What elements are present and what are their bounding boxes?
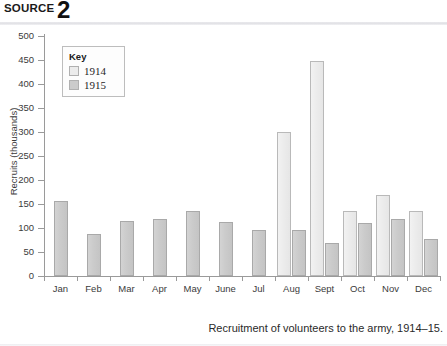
bar-1915 bbox=[120, 221, 134, 276]
legend-swatch-icon bbox=[69, 66, 79, 76]
bar-1915 bbox=[292, 230, 306, 276]
x-axis-tick bbox=[44, 276, 45, 281]
x-axis-tick-label: June bbox=[209, 283, 242, 294]
bar-1915 bbox=[252, 230, 266, 276]
bar-1914 bbox=[310, 61, 324, 276]
header-divider bbox=[0, 22, 447, 25]
legend-label: 1915 bbox=[84, 79, 106, 91]
bar-1915 bbox=[325, 243, 339, 276]
x-axis-tick bbox=[209, 276, 210, 281]
y-axis-tick-label: 200 bbox=[4, 174, 34, 185]
y-axis-tick-label: 50 bbox=[4, 246, 34, 257]
x-axis-tick-label: Mar bbox=[110, 283, 143, 294]
y-axis-tick-label: 400 bbox=[4, 78, 34, 89]
x-axis-tick bbox=[275, 276, 276, 281]
x-axis-tick bbox=[176, 276, 177, 281]
legend-entry: 1914 bbox=[69, 65, 118, 77]
x-axis-tick-label: Dec bbox=[407, 283, 440, 294]
bar-1915 bbox=[186, 211, 200, 276]
bar-chart: Recruits (thousands) 0501001502002503003… bbox=[0, 26, 447, 327]
y-axis-tick-label: 250 bbox=[4, 150, 34, 161]
x-axis-tick bbox=[308, 276, 309, 281]
bar-1914 bbox=[277, 132, 291, 276]
y-axis-tick-label: 0 bbox=[4, 270, 34, 281]
x-axis-tick-label: Nov bbox=[374, 283, 407, 294]
y-axis-tick-label: 500 bbox=[4, 30, 34, 41]
x-axis-tick-label: Jul bbox=[242, 283, 275, 294]
x-axis-tick bbox=[374, 276, 375, 281]
x-axis-tick bbox=[110, 276, 111, 281]
bar-1915 bbox=[424, 239, 438, 276]
x-axis-tick-label: Aug bbox=[275, 283, 308, 294]
y-axis-tick-label: 100 bbox=[4, 222, 34, 233]
bar-1914 bbox=[409, 211, 423, 276]
x-axis-tick bbox=[143, 276, 144, 281]
bar-1915 bbox=[87, 234, 101, 276]
source-header: SOURCE 2 bbox=[0, 0, 447, 26]
x-axis-tick-label: Apr bbox=[143, 283, 176, 294]
bar-1914 bbox=[376, 195, 390, 276]
y-axis-tick-label: 350 bbox=[4, 102, 34, 113]
chart-caption: Recruitment of volunteers to the army, 1… bbox=[0, 322, 447, 334]
bar-1915 bbox=[54, 201, 68, 276]
x-axis-tick bbox=[77, 276, 78, 281]
bar-1914 bbox=[343, 211, 357, 276]
y-axis-tick-label: 300 bbox=[4, 126, 34, 137]
y-axis-tick-label: 150 bbox=[4, 198, 34, 209]
x-axis-tick bbox=[341, 276, 342, 281]
bar-1915 bbox=[391, 219, 405, 276]
y-axis-tick-label: 450 bbox=[4, 54, 34, 65]
x-axis-tick-label: Feb bbox=[77, 283, 110, 294]
bar-1915 bbox=[153, 219, 167, 276]
x-axis-tick-label: Sept bbox=[308, 283, 341, 294]
x-axis-tick-label: May bbox=[176, 283, 209, 294]
source-label: SOURCE bbox=[4, 2, 54, 14]
x-axis-tick-label: Jan bbox=[44, 283, 77, 294]
x-axis-tick-label: Oct bbox=[341, 283, 374, 294]
x-axis-tick bbox=[440, 276, 441, 281]
legend-swatch-icon bbox=[69, 80, 79, 90]
legend-title: Key bbox=[69, 51, 118, 62]
legend-entry: 1915 bbox=[69, 79, 118, 91]
y-axis-labels: 050100150200250300350400450500 bbox=[0, 36, 34, 276]
x-axis-tick bbox=[407, 276, 408, 281]
bar-1915 bbox=[358, 223, 372, 276]
x-axis-tick bbox=[242, 276, 243, 281]
legend-label: 1914 bbox=[84, 65, 106, 77]
legend-entries: 19141915 bbox=[69, 65, 118, 91]
legend: Key 19141915 bbox=[62, 46, 125, 97]
source-number: 2 bbox=[57, 0, 70, 24]
bar-1915 bbox=[219, 222, 233, 276]
